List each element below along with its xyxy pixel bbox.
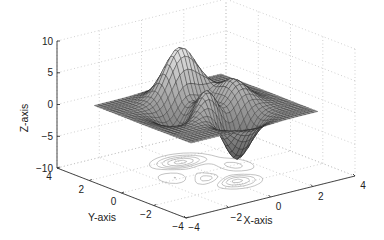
z-axis-label: Z-axis [18,104,30,133]
y-tick-label: 0 [111,196,117,207]
x-tick-label: −4 [188,222,200,233]
z-tick-label: 0 [47,99,53,110]
y-tick-label: −4 [172,221,184,232]
z-tick-label: −5 [42,131,54,142]
contour-projection [149,153,262,189]
x-tick-label: 0 [276,201,282,212]
z-tick-label: 10 [42,36,54,47]
surface-plot: −10−50510−4−2024−4−2024 Z-axis Y-axis X-… [0,0,384,240]
x-tick-label: −2 [231,212,243,223]
y-tick-label: 2 [79,184,85,195]
peaks-surface [94,48,317,160]
x-tick-label: 4 [360,180,366,191]
z-tick-label: 5 [47,67,53,78]
y-tick-label: 4 [46,171,52,182]
y-axis-label: Y-axis [88,211,116,223]
y-tick-label: −2 [140,209,152,220]
x-tick-label: 2 [318,191,324,202]
x-axis-label: X-axis [243,214,272,226]
